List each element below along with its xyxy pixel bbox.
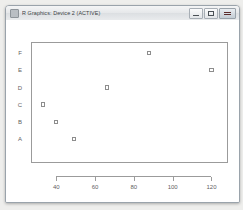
window-titlebar[interactable]: R Graphics: Device 2 (ACTIVE) <box>6 6 239 21</box>
y-tick-label: B <box>18 119 22 125</box>
y-tick-label: C <box>18 102 23 108</box>
plot-canvas: 406080100120ABCDEF <box>6 20 239 202</box>
minimize-button[interactable] <box>189 8 203 19</box>
r-graphics-window: R Graphics: Device 2 (ACTIVE) 4060801001… <box>5 5 240 203</box>
y-tick-label: D <box>18 85 23 91</box>
x-tick-label: 120 <box>206 184 217 190</box>
window-title: R Graphics: Device 2 (ACTIVE) <box>22 10 189 17</box>
close-button[interactable] <box>219 8 236 19</box>
scatter-plot: 406080100120ABCDEF <box>6 20 239 202</box>
x-tick-label: 60 <box>92 184 99 190</box>
maximize-button[interactable] <box>204 8 218 19</box>
data-point <box>72 137 75 140</box>
window-controls <box>189 8 236 19</box>
y-tick-label: F <box>18 50 22 56</box>
data-point <box>148 52 151 55</box>
r-graphics-icon <box>10 9 19 18</box>
x-tick-label: 100 <box>168 184 179 190</box>
plot-box <box>32 43 228 163</box>
data-point <box>210 69 213 72</box>
data-point <box>41 103 44 106</box>
data-point <box>55 120 58 123</box>
x-tick-label: 80 <box>131 184 138 190</box>
screen: R Graphics: Device 2 (ACTIVE) 4060801001… <box>0 0 243 210</box>
y-tick-label: E <box>18 67 22 73</box>
data-point <box>105 86 108 89</box>
y-tick-label: A <box>18 136 22 142</box>
x-tick-label: 40 <box>53 184 60 190</box>
